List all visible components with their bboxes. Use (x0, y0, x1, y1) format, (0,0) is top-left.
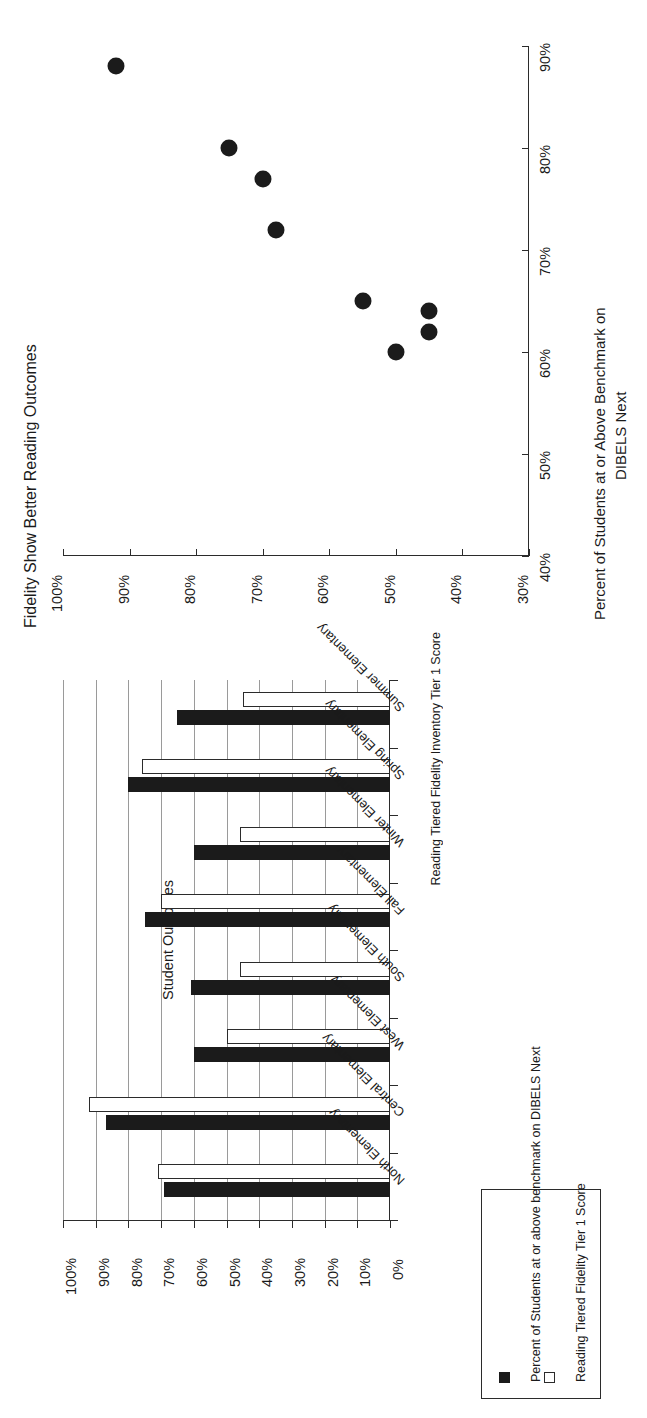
scatter-y-tick (396, 549, 397, 556)
scatter-xtick-label: 60% (537, 349, 553, 378)
bar-white (158, 1164, 390, 1179)
scatter-xtick-label: 90% (537, 43, 553, 72)
bar-value-label: 100% (63, 1258, 79, 1295)
scatter-ytick-label: 90% (116, 575, 132, 604)
scatter-ytick-label: 60% (315, 575, 331, 604)
bar-white (142, 759, 391, 774)
bar-gridline (63, 680, 64, 1220)
bar-value-tick (259, 1220, 260, 1228)
scatter-point (255, 171, 272, 188)
scatter-x-axis-title-line2: DIBELS Next (612, 392, 629, 480)
bar-black (194, 845, 390, 860)
scatter-x-axis-title-line1: Percent of Students at or Above Benchmar… (591, 307, 608, 620)
bar-value-label: 70% (161, 1258, 177, 1287)
bar-gridline (96, 680, 97, 1220)
bar-category-tick (390, 1220, 398, 1221)
scatter-ytick-label: 40% (448, 575, 464, 604)
bar-white (227, 1029, 391, 1044)
bar-category-tick (390, 748, 398, 749)
scatter-y-tick (263, 549, 264, 556)
bar-category-tick (390, 680, 398, 681)
scatter-xtick-label: 40% (537, 553, 553, 582)
scatter-xtick-label: 50% (537, 451, 553, 480)
bar-category-tick (390, 1018, 398, 1019)
bar-white (240, 962, 390, 977)
bar-value-tick (128, 1220, 129, 1228)
legend-label-rtfi: Reading Tiered Fidelity Tier 1 Score (574, 1183, 588, 1382)
scatter-ytick-label: 30% (515, 575, 531, 604)
bar-value-tick (161, 1220, 162, 1228)
bar-value-tick (390, 1220, 391, 1228)
bar-category-tick (390, 950, 398, 951)
scatter-plot-area (63, 46, 529, 556)
bar-value-tick (325, 1220, 326, 1228)
bar-value-label: 10% (357, 1258, 373, 1287)
bar-value-label: 40% (259, 1258, 275, 1287)
bar-black (191, 980, 391, 995)
bar-value-tick (194, 1220, 195, 1228)
bar-white (240, 827, 390, 842)
bar-value-label: 20% (325, 1258, 341, 1287)
scatter-y-tick (329, 549, 330, 556)
scatter-y-tick (529, 549, 530, 556)
scatter-x-tick (522, 556, 529, 557)
scatter-y-tick (196, 549, 197, 556)
scatter-x-axis-line (528, 46, 529, 556)
bar-category-tick (390, 1153, 398, 1154)
bar-white (161, 894, 390, 909)
bar-black (194, 1047, 390, 1062)
bar-value-label: 90% (96, 1258, 112, 1287)
bar-value-label: 80% (129, 1258, 145, 1287)
bar-category-tick (390, 815, 398, 816)
bar-value-tick (292, 1220, 293, 1228)
legend-label-dibels: Percent of Students at or above benchmar… (529, 1046, 543, 1382)
scatter-point (388, 344, 405, 361)
bar-value-label: 50% (227, 1258, 243, 1287)
legend-swatch-black-icon (499, 1372, 510, 1383)
scatter-x-tick (522, 148, 529, 149)
scatter-point (221, 140, 238, 157)
scatter-figure: Fidelity Show Better Reading Outcomes 40… (0, 0, 647, 640)
scatter-y-tick (63, 549, 64, 556)
bar-value-tick (63, 1220, 64, 1228)
bar-chart-legend: Percent of Students at or above benchmar… (481, 1189, 601, 1399)
bar-value-tick (96, 1220, 97, 1228)
scatter-xtick-label: 80% (537, 145, 553, 174)
scatter-x-tick (522, 250, 529, 251)
legend-swatch-white-icon (544, 1372, 555, 1383)
scatter-y-tick (462, 549, 463, 556)
bar-black (164, 1182, 390, 1197)
scatter-xtick-label: 70% (537, 247, 553, 276)
bar-category-tick (390, 1085, 398, 1086)
scatter-ytick-label: 100% (49, 575, 65, 612)
scatter-x-tick (522, 454, 529, 455)
scatter-ytick-label: 80% (182, 575, 198, 604)
scatter-ytick-label: 70% (249, 575, 265, 604)
bar-value-label: 60% (194, 1258, 210, 1287)
scatter-point (421, 324, 438, 341)
scatter-point (421, 303, 438, 320)
bar-plot-area (63, 680, 390, 1220)
bar-white (89, 1097, 390, 1112)
scatter-point (268, 222, 285, 239)
bar-white (243, 692, 390, 707)
bar-value-label: 30% (292, 1258, 308, 1287)
bar-gridline (128, 680, 129, 1220)
scatter-x-tick (522, 352, 529, 353)
scatter-x-tick (522, 46, 529, 47)
bar-value-label: 0% (390, 1259, 406, 1280)
scatter-title: Fidelity Show Better Reading Outcomes (22, 344, 40, 628)
bar-category-tick (390, 883, 398, 884)
scatter-y-tick (130, 549, 131, 556)
bar-value-tick (357, 1220, 358, 1228)
scatter-ytick-label: 50% (382, 575, 398, 604)
scatter-point (108, 58, 125, 75)
scatter-y-axis-line (63, 555, 529, 556)
scatter-point (355, 293, 372, 310)
bar-value-tick (227, 1220, 228, 1228)
